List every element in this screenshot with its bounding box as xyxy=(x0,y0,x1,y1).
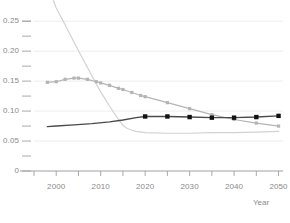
data-point-marker xyxy=(121,88,124,91)
data-point-marker xyxy=(64,78,67,81)
series-line-mid-gray-series xyxy=(47,78,278,126)
x-axis-tick-label: 2040 xyxy=(214,182,254,191)
y-axis-tick-label: 0 xyxy=(0,166,19,175)
series-line-steep-decline-series xyxy=(52,0,279,133)
line-chart: 00.050.100.150.200.252000201020202030204… xyxy=(0,0,290,223)
data-point-marker xyxy=(255,121,258,124)
data-point-marker xyxy=(187,115,191,119)
y-axis-tick-label: 0.05 xyxy=(0,136,19,145)
x-axis-tick-label: 2030 xyxy=(170,182,210,191)
data-point-marker xyxy=(143,114,147,118)
data-point-marker xyxy=(108,84,111,87)
y-axis-tick-label: 0.25 xyxy=(0,16,19,25)
data-point-marker xyxy=(99,81,102,84)
data-point-marker xyxy=(144,95,147,98)
data-point-marker xyxy=(276,114,280,118)
data-point-marker xyxy=(232,115,236,119)
x-axis-tick-label: 2020 xyxy=(125,182,165,191)
y-axis-tick-label: 0.20 xyxy=(0,46,19,55)
data-point-marker xyxy=(72,77,75,80)
x-axis-tick-label: 2010 xyxy=(81,182,121,191)
data-point-marker xyxy=(130,91,133,94)
data-point-marker xyxy=(46,81,49,84)
data-point-marker xyxy=(188,107,191,110)
data-point-marker xyxy=(117,87,120,90)
data-point-marker xyxy=(139,94,142,97)
data-point-marker xyxy=(55,80,58,83)
data-point-marker xyxy=(210,115,214,119)
data-point-marker xyxy=(166,101,169,104)
data-point-marker xyxy=(77,77,80,80)
data-point-marker xyxy=(86,78,89,81)
data-point-marker xyxy=(277,124,280,127)
y-axis-tick-label: 0.10 xyxy=(0,106,19,115)
x-axis-title: Year xyxy=(253,198,269,207)
x-axis-tick-label: 2000 xyxy=(36,182,76,191)
x-axis-tick-label: 2050 xyxy=(259,182,290,191)
data-point-marker xyxy=(254,115,258,119)
y-axis-tick-label: 0.15 xyxy=(0,76,19,85)
data-point-marker xyxy=(165,114,169,118)
data-point-marker xyxy=(95,80,98,83)
